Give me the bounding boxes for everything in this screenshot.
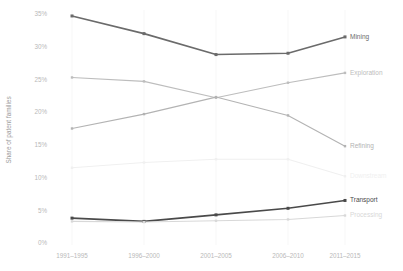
y-axis-tick-label: 5%	[38, 207, 48, 214]
y-axis-tick-label: 20%	[34, 108, 47, 115]
x-axis-tick-label: 1996–2000	[128, 252, 160, 259]
data-point-marker	[287, 218, 289, 220]
series-line	[72, 216, 345, 223]
x-axis-tick-label: 2006–2010	[272, 252, 304, 259]
y-axis-tick-label: 15%	[34, 141, 47, 148]
series-downstream	[71, 158, 346, 177]
line-chart: 0%5%10%15%20%25%30%35% 1991–19951996–200…	[0, 0, 403, 271]
data-point-marker	[344, 35, 347, 38]
data-point-marker	[143, 161, 145, 163]
data-point-marker	[215, 53, 218, 56]
series-line	[72, 159, 345, 176]
data-point-marker	[344, 175, 346, 177]
data-point-marker	[344, 214, 346, 216]
data-point-marker	[71, 167, 73, 169]
series-label-refining: Refining	[350, 142, 374, 150]
series-label-processing: Processing	[350, 211, 383, 219]
y-axis-tick-label: 10%	[34, 174, 47, 181]
data-point-marker	[71, 220, 73, 222]
series-label-transport: Transport	[350, 196, 378, 204]
data-point-marker	[143, 80, 145, 82]
data-point-marker	[215, 220, 217, 222]
data-point-marker	[344, 199, 347, 202]
data-point-marker	[143, 32, 146, 35]
data-point-marker	[71, 217, 74, 220]
data-point-marker	[71, 76, 73, 78]
series-label-mining: Mining	[350, 33, 370, 41]
data-point-marker	[143, 113, 145, 115]
y-axis-tick-label: 30%	[34, 43, 47, 50]
data-point-marker	[287, 82, 289, 84]
series-line	[72, 16, 345, 55]
series-exploration	[71, 72, 346, 99]
series-labels: MiningExplorationRefiningDownstreamTrans…	[350, 33, 386, 220]
data-point-marker	[287, 114, 289, 116]
data-point-marker	[287, 52, 290, 55]
x-axis-tick-labels: 1991–19951996–20002001–20052006–20102011…	[56, 252, 361, 259]
y-axis-tick-labels: 0%5%10%15%20%25%30%35%	[34, 10, 47, 246]
series-label-downstream: Downstream	[350, 172, 386, 179]
data-point-marker	[71, 14, 74, 17]
data-point-marker	[215, 213, 218, 216]
series-refining	[71, 96, 346, 147]
chart-canvas: 0%5%10%15%20%25%30%35% 1991–19951996–200…	[0, 0, 403, 271]
data-point-marker	[287, 158, 289, 160]
series-transport	[71, 199, 347, 223]
data-point-marker	[215, 96, 217, 98]
data-point-marker	[287, 207, 290, 210]
data-series	[71, 14, 347, 223]
data-point-marker	[215, 158, 217, 160]
x-axis-tick-label: 1991–1995	[56, 252, 88, 259]
series-label-exploration: Exploration	[350, 69, 383, 77]
y-axis-tick-label: 35%	[34, 10, 47, 17]
data-point-marker	[344, 145, 346, 147]
data-point-marker	[71, 127, 73, 129]
series-line	[72, 73, 345, 98]
x-axis-tick-label: 2011–2015	[329, 252, 361, 259]
series-mining	[71, 14, 347, 56]
series-line	[72, 97, 345, 146]
y-axis-title: Share of patent families	[5, 96, 13, 163]
data-point-marker	[143, 221, 145, 223]
x-axis-tick-label: 2001–2005	[200, 252, 232, 259]
data-point-marker	[344, 72, 346, 74]
y-axis-tick-label: 0%	[38, 239, 48, 246]
y-axis-tick-label: 25%	[34, 76, 47, 83]
gridlines	[72, 10, 345, 245]
